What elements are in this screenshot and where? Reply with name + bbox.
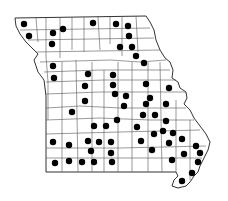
county-dot [51,75,57,81]
county-dot [160,128,166,134]
county-dot [52,160,58,166]
county-dot [126,33,132,39]
county-dot [170,130,176,136]
county-dot [85,71,91,77]
county-dot [163,101,169,107]
missouri-county-map [0,0,228,201]
county-dot [113,21,119,27]
county-dot [166,85,172,91]
county-dot [114,117,120,123]
county-dot [163,118,169,124]
county-dot [147,95,153,101]
county-dot [193,143,199,149]
county-dot [121,103,127,109]
county-dot [133,53,139,59]
county-dot [103,123,109,129]
county-dot [117,44,123,50]
county-dot [152,112,158,118]
county-dot [112,91,118,97]
county-dot [82,98,88,104]
county-dot [96,139,102,145]
county-dot [134,124,140,130]
county-dot [181,151,187,157]
county-dot [66,158,72,164]
county-dot [140,112,146,118]
county-dot [179,178,185,184]
county-dot [90,20,96,26]
county-dot [179,136,185,142]
county-dot [66,142,72,148]
county-dot [195,159,201,165]
county-dot [143,101,149,107]
map-svg [0,0,228,201]
county-dot [143,81,149,87]
county-dot [50,63,56,69]
county-dot [88,148,94,154]
county-dot [141,60,147,66]
county-dot [69,109,75,115]
county-dot [49,41,55,47]
county-dot [110,82,116,88]
county-dot [85,138,91,144]
county-dot [110,72,116,78]
county-dot [189,170,195,176]
county-dot [123,93,129,99]
county-dot [108,139,114,145]
county-dot [151,131,157,137]
county-dot [197,150,203,156]
county-dot [50,139,56,145]
county-dot [166,140,172,146]
county-dot [79,159,85,165]
county-dot [50,30,56,36]
county-dot [91,123,97,129]
county-dot [82,83,88,89]
county-dot [26,33,32,39]
county-dot [108,150,114,156]
county-dot [138,138,144,144]
county-dot [125,23,131,29]
county-dot [129,44,135,50]
county-dot [21,21,27,27]
county-dot [109,159,115,165]
county-dot [149,147,155,153]
county-dot [169,157,175,163]
county-dot [60,26,66,32]
county-dot [91,159,97,165]
